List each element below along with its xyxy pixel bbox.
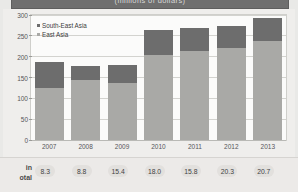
- bar-segment-south-east-asia: [35, 62, 64, 88]
- chart-legend: South-East Asia East Asia: [37, 21, 87, 39]
- bar-segment-east-asia: [217, 48, 246, 141]
- share-bubble-2010: 18.0: [145, 165, 165, 177]
- legend-item-east-asia: East Asia: [37, 30, 87, 39]
- y-axis-tick-label: 300: [17, 12, 28, 19]
- chart-screenshot: (millions of dollars) 050100150200250300…: [0, 0, 298, 192]
- bar-2007: 2007: [35, 62, 64, 140]
- bar-segment-south-east-asia: [180, 28, 209, 51]
- footer-bubbles: 8.38.815.418.015.820.320.7: [27, 157, 284, 192]
- bar-segment-east-asia: [144, 55, 173, 140]
- bar-2012: 2012: [217, 26, 246, 140]
- y-axis-tick-label: 250: [17, 32, 28, 39]
- bar-2010: 2010: [144, 30, 173, 140]
- x-axis-tick-label: 2008: [71, 143, 100, 150]
- legend-swatch-icon: [37, 24, 40, 27]
- x-axis-tick-label: 2012: [217, 143, 246, 150]
- legend-label: East Asia: [42, 30, 68, 39]
- bar-2013: 2013: [253, 18, 282, 140]
- plot-area: 050100150200250300 200720082009201020112…: [30, 14, 287, 141]
- bar-2011: 2011: [180, 28, 209, 140]
- y-axis-tick-label: 200: [17, 53, 28, 60]
- x-axis-tick-label: 2007: [35, 143, 64, 150]
- share-bubble-2009: 15.4: [108, 165, 128, 177]
- share-bubble-2008: 8.8: [72, 165, 92, 177]
- bar-2009: 2009: [108, 65, 137, 140]
- chart-title: (millions of dollars): [12, 0, 288, 5]
- chart-title-bar: (millions of dollars): [11, 0, 289, 9]
- share-bubble-2007: 8.3: [35, 165, 55, 177]
- chart-card: 050100150200250300 200720082009201020112…: [3, 9, 295, 157]
- bar-segment-east-asia: [253, 41, 282, 140]
- bar-segment-south-east-asia: [253, 18, 282, 41]
- y-axis-tick-label: 150: [17, 74, 28, 81]
- bar-segment-east-asia: [108, 83, 137, 140]
- legend-item-south-east-asia: South-East Asia: [37, 21, 87, 30]
- bar-segment-south-east-asia: [144, 30, 173, 54]
- bar-segment-east-asia: [71, 80, 100, 140]
- x-axis-tick-label: 2011: [180, 143, 209, 150]
- legend-label: South-East Asia: [42, 21, 87, 30]
- x-axis-tick-label: 2013: [253, 143, 282, 150]
- y-axis-tick-label: 50: [21, 116, 28, 123]
- share-bubble-2013: 20.7: [254, 165, 274, 177]
- bar-segment-south-east-asia: [108, 65, 137, 83]
- x-axis-tick-label: 2009: [108, 143, 137, 150]
- bar-2008: 2008: [71, 66, 100, 140]
- footer-row: in otal 8.38.815.418.015.820.320.7: [0, 157, 298, 192]
- y-axis-tick-label: 0: [24, 137, 28, 144]
- x-axis-tick-label: 2010: [144, 143, 173, 150]
- bar-segment-east-asia: [180, 51, 209, 140]
- bar-segment-south-east-asia: [217, 26, 246, 48]
- share-bubble-2012: 20.3: [217, 165, 237, 177]
- bar-segment-east-asia: [35, 88, 64, 140]
- legend-swatch-icon: [37, 33, 40, 36]
- bar-segment-south-east-asia: [71, 66, 100, 79]
- share-bubble-2011: 15.8: [181, 165, 201, 177]
- y-axis-tick-label: 100: [17, 95, 28, 102]
